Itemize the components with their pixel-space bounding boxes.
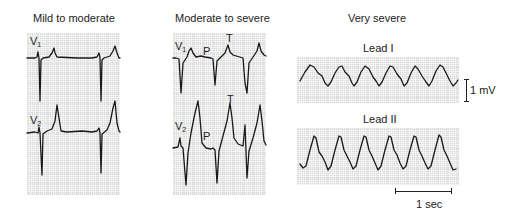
lead-label-v2: V2 [30,115,41,127]
voltage-scale-label: 1 mV [470,84,496,96]
strip-title-lead-i: Lead I [363,42,394,54]
voltage-scale-bar [464,79,469,102]
lead-label-v2: V2 [175,121,186,133]
ecg-strip-lead-ii [297,128,459,185]
panel-title-very-severe: Very severe [348,12,406,24]
ecg-trace-moderate [173,33,266,195]
ecg-trace-mild [27,33,120,195]
time-scale-bar [395,188,452,194]
time-scale-label: 1 sec [416,198,442,210]
p-wave-label: P [203,46,210,57]
p-wave-label: P [203,131,210,142]
lead-label-v1: V1 [30,36,41,48]
ecg-strip-lead-i [297,57,459,103]
t-wave-label: T [227,94,234,105]
ecg-trace-lead-ii [297,128,459,185]
ecg-strip-moderate: V1 P T V2 P T [173,33,266,195]
panel-title-mild: Mild to moderate [33,12,115,24]
t-wave-label: T [226,33,233,44]
panel-title-moderate: Moderate to severe [175,12,270,24]
lead-label-v1: V1 [175,41,186,53]
ecg-strip-mild: V1 V2 [27,33,120,195]
ecg-trace-lead-i [297,57,459,103]
strip-title-lead-ii: Lead II [363,113,397,125]
